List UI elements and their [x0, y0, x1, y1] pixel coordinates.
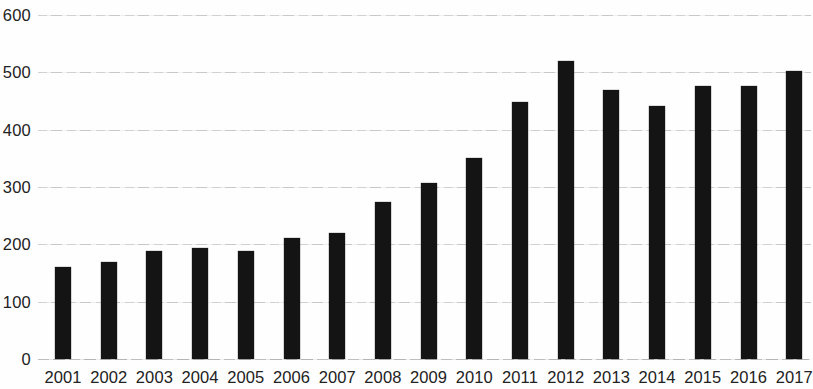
y-axis-tick-label: 0	[0, 351, 31, 368]
y-axis-tick-label: 500	[0, 64, 31, 81]
y-axis-tick-label: 100	[0, 293, 31, 310]
x-axis: 2001200220032004200520062007200820092010…	[38, 0, 813, 389]
y-axis-tick-label: 200	[0, 236, 31, 253]
y-axis-tick-label: 300	[0, 179, 31, 196]
y-axis: 0100200300400500600	[0, 0, 31, 389]
y-axis-tick-label: 400	[0, 121, 31, 138]
bar-chart: 0100200300400500600 20012002200320042005…	[0, 0, 813, 389]
y-axis-tick-label: 600	[0, 7, 31, 24]
x-axis-tick-label: 2017	[764, 369, 813, 386]
plot-area: 2001200220032004200520062007200820092010…	[38, 0, 813, 389]
